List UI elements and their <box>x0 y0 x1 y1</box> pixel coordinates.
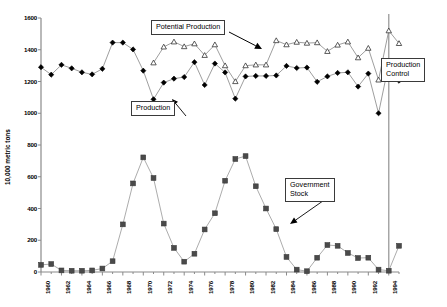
x-axis-tick-label: 1976 <box>207 281 214 294</box>
production-callout-label: Production <box>136 103 170 112</box>
x-axis-tick-label: 1962 <box>64 281 71 294</box>
y-axis-tick-label: 600 <box>8 173 37 180</box>
x-axis-tick-label: 1992 <box>371 281 378 294</box>
x-axis-tick-label: 1966 <box>105 281 112 294</box>
production-control-callout-line2: Control <box>386 70 420 79</box>
y-axis-tick-label: 1200 <box>8 78 37 85</box>
x-axis-tick-label: 1994 <box>391 281 398 294</box>
y-axis-tick-label: 200 <box>8 236 37 243</box>
chart-figure: 10,000 metric tons Potential Production … <box>0 0 447 307</box>
production-callout: Production <box>131 101 175 116</box>
chart-plot-area <box>0 0 447 307</box>
callout-arrow <box>229 32 262 49</box>
x-axis-tick-label: 1968 <box>125 281 132 294</box>
y-axis-tick-label: 400 <box>8 205 37 212</box>
production-control-callout: Production Control <box>381 58 425 82</box>
x-axis-tick-label: 1980 <box>248 281 255 294</box>
government-stock-callout-line2: Stock <box>290 190 330 199</box>
potential-production-callout-label: Potential Production <box>156 22 220 31</box>
x-axis-tick-label: 1964 <box>85 281 92 294</box>
y-axis-tick-label: 0 <box>8 268 37 275</box>
series-government-stock <box>39 154 402 274</box>
y-axis-tick-label: 800 <box>8 141 37 148</box>
government-stock-callout: Government Stock <box>285 178 335 202</box>
y-axis-tick-label: 1400 <box>8 46 37 53</box>
x-axis-tick-label: 1974 <box>187 281 194 294</box>
x-axis-tick-label: 1978 <box>228 281 235 294</box>
x-axis-tick-label: 1982 <box>269 281 276 294</box>
x-axis-tick-label: 1984 <box>289 281 296 294</box>
x-axis-tick-label: 1970 <box>146 281 153 294</box>
x-axis-tick-label: 1988 <box>330 281 337 294</box>
series-production <box>38 40 401 116</box>
x-axis-tick-label: 1960 <box>44 281 51 294</box>
x-axis-tick-label: 1986 <box>310 281 317 294</box>
y-axis-tick-label: 1600 <box>8 14 37 21</box>
potential-production-callout: Potential Production <box>151 20 225 35</box>
x-axis-tick-label: 1990 <box>350 281 357 294</box>
y-axis-tick-label: 1000 <box>8 109 37 116</box>
x-axis-tick-label: 1972 <box>166 281 173 294</box>
